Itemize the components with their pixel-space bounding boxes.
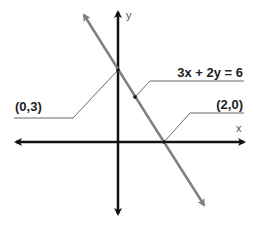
y-axis-label: y: [126, 9, 132, 21]
coordinate-graph: (0,3) 3x + 2y = 6 (2,0) x y: [0, 0, 256, 225]
x-intercept-point: [162, 140, 166, 144]
y-intercept-point: [116, 68, 120, 72]
x-axis-label: x: [236, 122, 242, 134]
y-intercept-label: (0,3): [15, 99, 42, 114]
x-intercept-label: (2,0): [216, 97, 243, 112]
equation-label: 3x + 2y = 6: [177, 65, 243, 80]
equation-leader: [135, 81, 244, 97]
equation-point: [133, 95, 137, 99]
equation-line: [84, 15, 204, 205]
x-intercept-leader: [164, 113, 244, 142]
